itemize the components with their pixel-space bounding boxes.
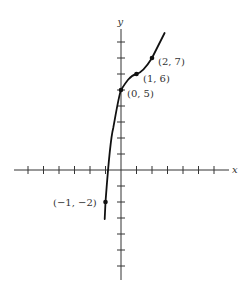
y-axis: y [117, 16, 126, 280]
x-axis-label: x [232, 164, 238, 175]
point-0-5 [119, 88, 124, 93]
cubic-graph: x y (−1, −2) (0, 5) (1, [0, 0, 249, 298]
point-neg1-neg2 [103, 200, 108, 205]
x-axis: x [14, 164, 238, 175]
y-axis-label: y [117, 16, 124, 27]
point-1-6 [134, 72, 139, 77]
label-point-neg1-neg2: (−1, −2) [53, 197, 97, 208]
label-point-0-5: (0, 5) [127, 88, 154, 99]
point-2-7 [150, 56, 155, 61]
cubic-curve [105, 33, 165, 219]
label-point-2-7: (2, 7) [158, 56, 185, 67]
label-point-1-6: (1, 6) [143, 73, 170, 84]
